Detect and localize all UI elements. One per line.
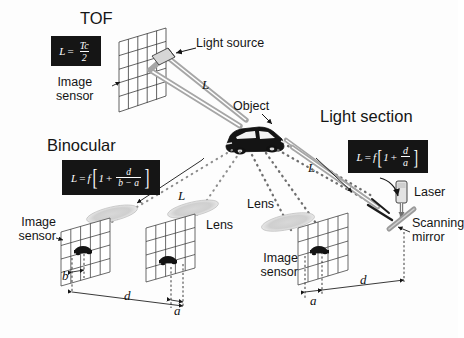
light-section-title: Light section bbox=[320, 108, 413, 126]
tof-image-sensor-line1: Image bbox=[56, 75, 94, 89]
binocular-formula-plus: + bbox=[106, 172, 112, 184]
object-pointer bbox=[262, 114, 272, 124]
light-section-formula-numerator: d bbox=[401, 145, 410, 156]
object-car bbox=[226, 127, 285, 154]
light-section-bracket-open: [ bbox=[377, 144, 382, 170]
light-source-pointer bbox=[176, 48, 196, 53]
laser-label: Laser bbox=[414, 186, 445, 200]
scanning-mirror-line1: Scanning bbox=[412, 216, 464, 230]
binocular-formula-denominator: b − a bbox=[116, 177, 141, 188]
binocular-formula-one: 1 bbox=[99, 172, 105, 184]
tof-formula-denominator: 2 bbox=[80, 51, 89, 63]
scanning-mirror-label: Scanning mirror bbox=[412, 216, 464, 244]
light-section-a-symbol: a bbox=[310, 293, 317, 309]
light-section-formula-plate: L = f [ 1 + d a ] bbox=[348, 140, 428, 173]
light-section-bracket-close: ] bbox=[413, 144, 418, 170]
light-section-formula-denominator: a bbox=[401, 156, 410, 168]
binocular-b-symbol: b bbox=[62, 268, 69, 284]
light-section-image-sensor-line1: Image bbox=[254, 251, 298, 265]
laser-body bbox=[396, 181, 407, 218]
light-section-formula-lhs: L bbox=[357, 151, 363, 163]
tof-distance-symbol: L bbox=[202, 77, 209, 93]
light-section-formula-f: f bbox=[373, 151, 376, 163]
binocular-image-sensor-line2: sensor bbox=[14, 229, 56, 243]
light-section-lens-label: Lens bbox=[247, 198, 274, 212]
tof-sensor-grid bbox=[119, 28, 166, 112]
light-section-distance-symbol: L bbox=[308, 160, 315, 176]
binocular-distance-symbol: L bbox=[178, 188, 185, 204]
binocular-formula-eq: = bbox=[79, 172, 85, 184]
light-section-image-sensor-label: Image sensor bbox=[254, 251, 298, 279]
light-section-formula-plus: + bbox=[391, 151, 397, 163]
binocular-bracket-close: ] bbox=[144, 164, 149, 191]
tof-title: TOF bbox=[80, 10, 113, 28]
scanning-mirror-line2: mirror bbox=[412, 230, 464, 244]
light-section-image-sensor-line2: sensor bbox=[254, 265, 298, 279]
light-section-formula-one: 1 bbox=[383, 151, 389, 163]
binocular-formula-numerator: d bbox=[124, 167, 133, 177]
binocular-d-symbol: d bbox=[124, 288, 131, 304]
binocular-right-sensor-grid bbox=[146, 214, 195, 282]
tof-formula-eq: = bbox=[67, 45, 73, 57]
tof-formula-plate: L = Tc 2 bbox=[51, 36, 101, 66]
lens-shapes bbox=[85, 196, 316, 235]
binocular-lens-label: Lens bbox=[206, 219, 233, 233]
binocular-title: Binocular bbox=[47, 137, 116, 155]
light-section-formula-eq: = bbox=[365, 151, 371, 163]
scanning-mirror-pointer bbox=[398, 227, 410, 232]
tof-image-sensor-line2: sensor bbox=[56, 89, 94, 103]
tof-image-sensor-label: Image sensor bbox=[56, 75, 94, 103]
light-source-label: Light source bbox=[196, 37, 264, 51]
light-section-d-symbol: d bbox=[360, 272, 367, 288]
binocular-bracket-open: [ bbox=[92, 164, 97, 191]
object-label: Object bbox=[233, 100, 269, 114]
binocular-formula-lhs: L bbox=[71, 172, 77, 184]
binocular-a-symbol: a bbox=[174, 303, 181, 319]
tof-formula-lhs: L bbox=[59, 45, 65, 57]
binocular-image-sensor-label: Image sensor bbox=[14, 215, 56, 243]
tof-formula-numerator: Tc bbox=[78, 40, 91, 51]
binocular-formula-f: f bbox=[87, 172, 90, 184]
binocular-image-sensor-line1: Image bbox=[14, 215, 56, 229]
binocular-formula-plate: L = f [ 1 + d b − a ] bbox=[62, 160, 160, 195]
